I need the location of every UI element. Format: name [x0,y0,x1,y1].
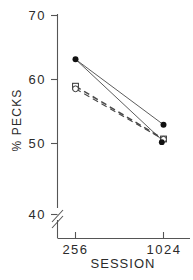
y-tick-label-70: 70 [29,8,46,23]
y-tick-label-50: 50 [29,136,46,151]
marker-open-circle-left [73,86,79,92]
x-tick-label-1024: 1024 [147,242,182,257]
marker-filled-circle-left [73,56,79,62]
y-tick-label-40: 40 [29,207,46,222]
y-axis-title: % PECKS [10,88,24,151]
series-line-filled-lower [76,59,164,141]
series-line-open-square [76,86,164,139]
series-line-open-circle [76,89,164,140]
y-tick-label-60: 60 [29,72,46,87]
x-tick-label-256: 256 [62,242,88,257]
series-line-filled-upper [76,59,164,124]
chart-figure: 70 60 50 40 256 1024 SESSION % PECKS [0,0,193,280]
marker-filled-circle-right-lower [159,139,165,145]
chart-canvas: 70 60 50 40 256 1024 SESSION % PECKS [0,0,193,280]
x-axis-title: SESSION [91,256,156,271]
marker-filled-circle-right-upper [161,122,167,128]
